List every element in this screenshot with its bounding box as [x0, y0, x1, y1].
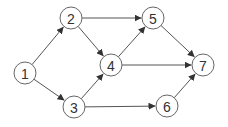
node-label: 5 — [149, 11, 157, 27]
node-4: 4 — [100, 54, 122, 76]
edge-1-to-2 — [32, 27, 64, 65]
node-6: 6 — [156, 95, 178, 117]
edge-3-to-6 — [85, 106, 156, 107]
edge-3-to-4 — [81, 74, 103, 99]
node-label: 3 — [70, 100, 78, 116]
directed-graph-diagram: 1234567 — [0, 0, 228, 127]
edge-1-to-3 — [34, 79, 65, 100]
node-label: 1 — [21, 66, 29, 82]
node-7: 7 — [192, 54, 214, 76]
edge-5-to-7 — [161, 26, 195, 58]
node-3: 3 — [63, 96, 85, 118]
node-label: 2 — [67, 11, 75, 27]
node-2: 2 — [60, 7, 82, 29]
node-5: 5 — [142, 7, 164, 29]
node-label: 4 — [107, 58, 115, 74]
edge-6-to-7 — [174, 74, 195, 98]
edge-4-to-5 — [118, 27, 145, 57]
node-label: 6 — [163, 99, 171, 115]
node-label: 7 — [199, 58, 207, 74]
nodes-layer: 1234567 — [14, 7, 214, 118]
node-1: 1 — [14, 62, 36, 84]
edge-2-to-4 — [78, 26, 103, 56]
